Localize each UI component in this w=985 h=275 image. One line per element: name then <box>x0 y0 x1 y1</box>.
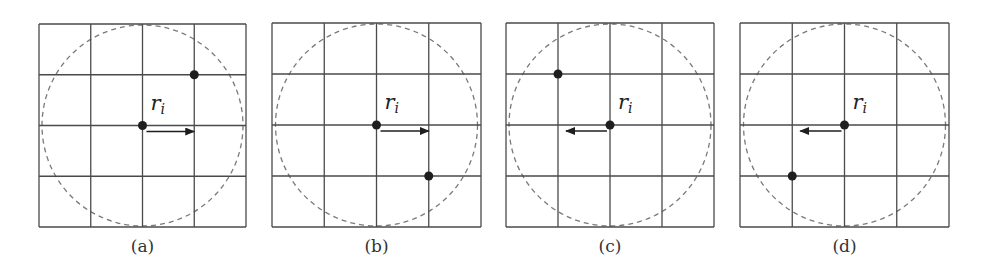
center-node-label: ri <box>853 90 868 116</box>
center-node-label: ri <box>151 91 166 117</box>
panel-caption: (b) <box>364 236 388 256</box>
neighbor-node <box>554 70 563 79</box>
center-node <box>372 121 381 130</box>
neighbor-node <box>424 172 433 181</box>
panel-c: ri(c) <box>506 23 714 256</box>
panel-caption: (d) <box>832 236 856 256</box>
panel-a: ri(a) <box>39 24 246 256</box>
panel-caption: (c) <box>599 236 622 256</box>
neighbor-node <box>190 70 199 79</box>
panel-d: ri(d) <box>740 23 949 256</box>
panel-b: ri(b) <box>272 23 481 256</box>
grid-neighborhood-figure: ri(a)ri(b)ri(c)ri(d) <box>0 0 985 275</box>
center-node <box>606 121 615 130</box>
center-node-label: ri <box>618 90 633 116</box>
center-node <box>840 121 849 130</box>
panel-caption: (a) <box>131 236 154 256</box>
neighbor-node <box>788 172 797 181</box>
center-node <box>138 121 147 130</box>
center-node-label: ri <box>385 90 400 116</box>
